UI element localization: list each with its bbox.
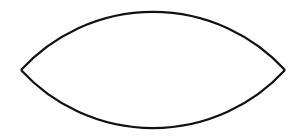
lens-shape-svg [0,0,306,140]
lens-top-arc [21,12,285,70]
lens-bottom-arc [21,70,285,128]
diagram-canvas [0,0,306,140]
